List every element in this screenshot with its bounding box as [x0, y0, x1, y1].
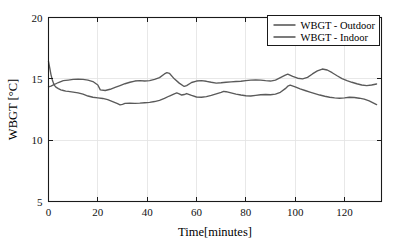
y-axis-title: WBGT [°C]: [6, 79, 20, 140]
x-tick-label: 0: [46, 206, 52, 218]
x-tick-label: 100: [287, 206, 304, 218]
x-tick-label: 40: [142, 206, 154, 218]
y-tick-label: 5: [37, 196, 43, 208]
x-tick-label: 60: [191, 206, 203, 218]
legend-label-outdoor: WBGT - Outdoor: [301, 20, 376, 31]
wbgt-line-chart: 0204060801001205101520 Time[minutes] WBG…: [0, 0, 400, 244]
legend-label-indoor: WBGT - Indoor: [301, 32, 369, 43]
x-axis-title: Time[minutes]: [178, 225, 252, 239]
x-tick-label: 120: [336, 206, 353, 218]
y-tick-label: 20: [32, 12, 44, 24]
y-tick-label: 15: [32, 73, 44, 85]
x-tick-label: 80: [240, 206, 252, 218]
figure-container: 0204060801001205101520 Time[minutes] WBG…: [0, 0, 400, 244]
y-tick-label: 10: [32, 134, 44, 146]
x-tick-label: 20: [92, 206, 104, 218]
legend[interactable]: WBGT - OutdoorWBGT - Indoor: [268, 16, 380, 46]
